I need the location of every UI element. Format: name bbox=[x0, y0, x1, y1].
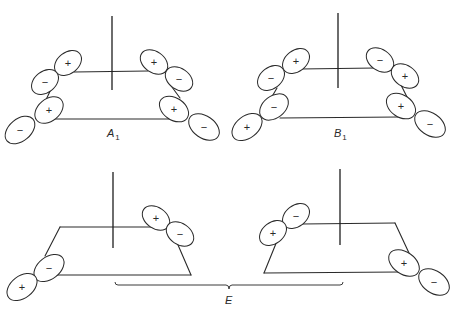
minus-sign: − bbox=[42, 76, 48, 88]
plus-sign: + bbox=[171, 103, 177, 115]
label-subscript: 1 bbox=[115, 133, 120, 142]
plus-sign: + bbox=[398, 100, 404, 112]
plus-sign: + bbox=[151, 56, 157, 68]
plus-sign: + bbox=[19, 281, 25, 293]
minus-sign: − bbox=[271, 101, 277, 113]
minus-sign: − bbox=[431, 276, 437, 288]
label-E-main: E bbox=[225, 294, 233, 306]
plus-sign: + bbox=[293, 55, 299, 67]
minus-sign: − bbox=[46, 262, 52, 274]
label-main: A bbox=[106, 127, 114, 139]
orbital-symmetry-diagram: +−+−+−+−A1+−−+−++−B1−++−−++− E bbox=[0, 0, 464, 316]
plus-sign: + bbox=[46, 104, 52, 116]
minus-sign: − bbox=[17, 124, 23, 136]
plus-sign: + bbox=[153, 212, 159, 224]
minus-sign: − bbox=[268, 72, 274, 84]
plus-sign: + bbox=[402, 70, 408, 82]
plus-sign: + bbox=[270, 227, 276, 239]
plus-sign: + bbox=[244, 121, 250, 133]
plus-sign: + bbox=[401, 257, 407, 269]
label-subscript: 1 bbox=[342, 133, 347, 142]
label-main: B bbox=[334, 127, 341, 139]
minus-sign: − bbox=[427, 118, 433, 130]
label-E: E bbox=[225, 294, 233, 306]
minus-sign: − bbox=[176, 73, 182, 85]
minus-sign: − bbox=[177, 228, 183, 240]
minus-sign: − bbox=[201, 121, 207, 133]
minus-sign: − bbox=[293, 210, 299, 222]
plus-sign: + bbox=[65, 57, 71, 69]
minus-sign: − bbox=[377, 54, 383, 66]
